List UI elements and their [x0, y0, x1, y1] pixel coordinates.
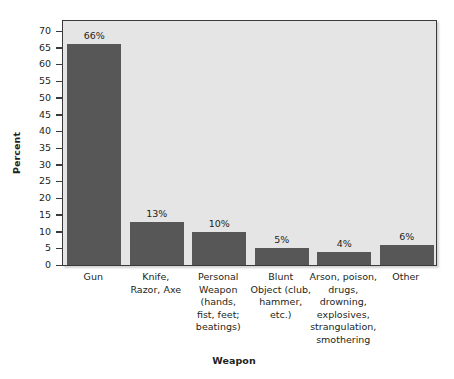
y-axis-tick-label: 65 — [39, 41, 51, 54]
bar-value-label: 13% — [146, 208, 167, 220]
y-axis-tick-label: 40 — [39, 124, 51, 137]
y-axis-tick-label: 15 — [39, 208, 51, 221]
y-axis-tick-label: 45 — [39, 108, 51, 121]
y-axis-tick-label: 50 — [39, 91, 51, 104]
bar: 10% — [192, 232, 246, 265]
bar-value-label: 4% — [337, 238, 352, 250]
bar-value-label: 5% — [274, 234, 289, 246]
bar: 13% — [130, 222, 184, 265]
bar-value-label: 10% — [209, 218, 230, 230]
y-axis-title: Percent — [11, 108, 23, 198]
y-axis-tick-label: 10 — [39, 225, 51, 238]
y-axis-tick-label: 20 — [39, 191, 51, 204]
y-axis-tick-label: 70 — [39, 24, 51, 37]
y-axis-tick-label: 55 — [39, 74, 51, 87]
bar: 4% — [317, 252, 371, 265]
x-axis-title: Weapon — [0, 355, 454, 366]
y-axis-tick-label: 25 — [39, 174, 51, 187]
bar-chart-figure: Percent 0510152025303540455055606570 66%… — [0, 0, 454, 379]
x-axis-category-label: Other — [360, 271, 452, 284]
bar: 5% — [255, 248, 309, 265]
y-axis-tick-label: 0 — [45, 258, 51, 271]
y-axis-tick-label: 30 — [39, 158, 51, 171]
bar-value-label: 66% — [84, 30, 105, 42]
bar-value-label: 6% — [399, 231, 414, 243]
y-axis-tick-label: 35 — [39, 141, 51, 154]
bar: 6% — [380, 245, 434, 265]
y-axis-tick-label: 60 — [39, 57, 51, 70]
y-axis-tick-label: 5 — [45, 241, 51, 254]
bar: 66% — [67, 44, 121, 265]
plot-area: 66%13%10%5%4%6% — [62, 20, 437, 266]
